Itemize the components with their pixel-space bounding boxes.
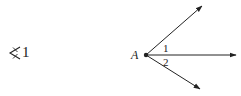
lower-ray bbox=[146, 55, 200, 89]
angle-label-2: 2 bbox=[163, 56, 169, 68]
angle-diagram: A 1 2 bbox=[0, 0, 241, 96]
vertex-point bbox=[144, 53, 148, 57]
vertex-label: A bbox=[130, 48, 139, 62]
upper-ray bbox=[146, 6, 202, 55]
angle-label-1: 1 bbox=[163, 42, 169, 54]
